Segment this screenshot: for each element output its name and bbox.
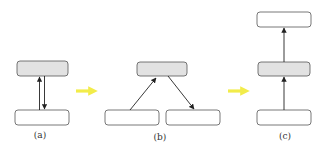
node-b-top	[137, 62, 187, 76]
node-b-left	[105, 110, 159, 125]
node-b-right	[166, 110, 220, 125]
panel-a: (a)	[15, 61, 69, 140]
node-c-top	[257, 12, 311, 27]
panel-b: (b)	[105, 62, 220, 142]
panel-label-c: (c)	[279, 131, 291, 141]
edge-b-left-to-top-arrow	[130, 78, 156, 110]
node-c-bottom	[257, 110, 311, 125]
panel-c: (c)	[257, 12, 311, 141]
panel-label-a: (a)	[34, 130, 46, 140]
diagram-canvas: (a) (b) (c)	[0, 0, 325, 155]
node-c-middle	[258, 62, 310, 76]
panel-label-b: (b)	[154, 132, 167, 142]
node-a-bottom	[15, 110, 69, 125]
edge-b-top-to-right-arrow	[168, 76, 194, 109]
node-a-top	[17, 61, 68, 76]
